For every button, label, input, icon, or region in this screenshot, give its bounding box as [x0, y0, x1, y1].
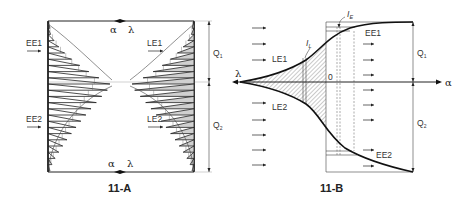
- q2-label: Q2: [213, 120, 223, 131]
- figure-11a: α λ α λ EE1 EE2 LE1 LE2 Q1 Q: [26, 19, 223, 194]
- inlet-band: [48, 65, 89, 71]
- outlet-band: [143, 72, 194, 78]
- ee1-label: EE1: [26, 38, 42, 48]
- alpha-label: α: [445, 77, 452, 88]
- q2-label-b: Q2: [417, 118, 427, 129]
- inlet-band: [48, 90, 102, 96]
- outlet-band: [177, 47, 194, 53]
- ee2-label-b: EE2: [376, 150, 392, 160]
- outlet-band: [171, 127, 194, 133]
- outlet-band: [183, 41, 194, 47]
- outlet-band: [166, 121, 194, 127]
- q1-bottom-arrow-icon: [412, 78, 415, 82]
- outlet-band: [170, 53, 194, 59]
- diagram-canvas: α λ α λ EE1 EE2 LE1 LE2 Q1 Q: [0, 0, 460, 203]
- le2-label: LE2: [147, 114, 162, 124]
- outlet-band: [162, 59, 194, 65]
- le1-label-b: LE1: [272, 54, 287, 64]
- inlet-band: [48, 28, 51, 34]
- top-lambda-label: λ: [128, 24, 135, 35]
- origin-label: 0: [328, 72, 333, 82]
- caption-11a: 11-A: [108, 182, 131, 194]
- top-alpha-label: α: [110, 24, 117, 35]
- q1-label-b: Q1: [417, 48, 427, 59]
- inlet-band: [48, 34, 54, 40]
- le2-label-b: LE2: [272, 102, 287, 112]
- figure-11b: λ α 0 Q1 Q2 IL IE LE1 LE2 EE1 EE2 11-B: [232, 9, 452, 194]
- bottom-lambda-label: λ: [127, 158, 134, 169]
- inlet-band: [48, 121, 76, 127]
- outlet-band: [188, 34, 194, 40]
- outlet-band: [132, 78, 194, 84]
- axis-right-arrow-icon: [436, 80, 442, 85]
- inlet-band: [48, 115, 81, 121]
- ie-label: IE: [347, 9, 353, 20]
- outlet-band: [153, 65, 194, 71]
- inlet-band: [48, 109, 86, 115]
- outlet-band: [161, 115, 194, 121]
- inlet-band: [48, 134, 67, 140]
- outlet-band: [146, 96, 194, 102]
- le1-label: LE1: [147, 38, 162, 48]
- axis-left-arrow-icon: [232, 80, 238, 85]
- ee1-label-b: EE1: [365, 28, 381, 38]
- inlet-band: [48, 72, 99, 78]
- left-lower-envelope: [48, 86, 112, 170]
- inlet-band: [48, 127, 71, 133]
- outlet-band: [191, 28, 194, 34]
- inlet-band: [48, 59, 80, 65]
- lambda-label: λ: [235, 68, 242, 79]
- inlet-band: [48, 84, 107, 90]
- inlet-band: [48, 47, 65, 53]
- left-inlet-profile: [48, 22, 110, 171]
- il-label: IL: [306, 38, 311, 49]
- caption-11b: 11-B: [320, 182, 343, 194]
- inlet-band: [48, 41, 59, 47]
- inlet-band: [48, 103, 91, 109]
- inlet-band: [48, 78, 110, 84]
- q1-label: Q1: [213, 48, 223, 59]
- outlet-band: [135, 84, 194, 90]
- ee2-label: EE2: [26, 114, 42, 124]
- dimension-q: Q1 Q2: [194, 21, 223, 172]
- q2-top-arrow-icon: [412, 82, 415, 86]
- right-outlet-profile: [132, 22, 194, 171]
- bottom-alpha-label: α: [108, 158, 115, 169]
- outlet-band: [151, 103, 194, 109]
- inlet-band: [48, 53, 72, 59]
